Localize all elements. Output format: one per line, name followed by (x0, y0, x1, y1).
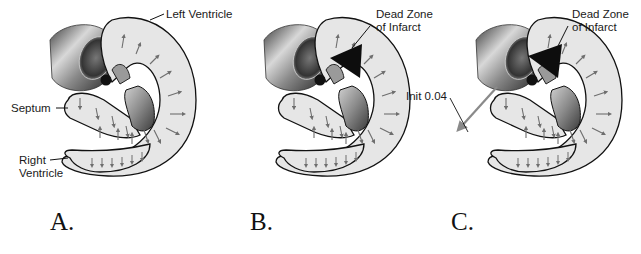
label-right-ventricle-line2: Ventricle (19, 167, 63, 179)
panel-letter-b: B. (250, 208, 273, 235)
label-dead-zone-line1: Dead Zone (376, 8, 433, 20)
panel-a: Left Ventricle Septum Right Ventricle A. (11, 8, 232, 235)
panel-c: Dead Zone of Infarct Init 0.04 C. (406, 8, 629, 235)
label-dead-zone-line2: of Infarct (572, 21, 618, 33)
panel-b: Dead Zone of Infarct B. (250, 8, 433, 235)
label-init-vector: Init 0.04 (406, 90, 448, 102)
label-septum: Septum (11, 102, 51, 114)
panel-letter-a: A. (50, 208, 74, 235)
label-right-ventricle-line1: Right (19, 154, 47, 166)
label-left-ventricle: Left Ventricle (166, 8, 232, 20)
heart-vector-diagram: Left Ventricle Septum Right Ventricle A.… (0, 0, 641, 254)
label-dead-zone-line2: of Infarct (376, 21, 422, 33)
label-dead-zone-line1: Dead Zone (572, 8, 629, 20)
panel-letter-c: C. (451, 208, 474, 235)
